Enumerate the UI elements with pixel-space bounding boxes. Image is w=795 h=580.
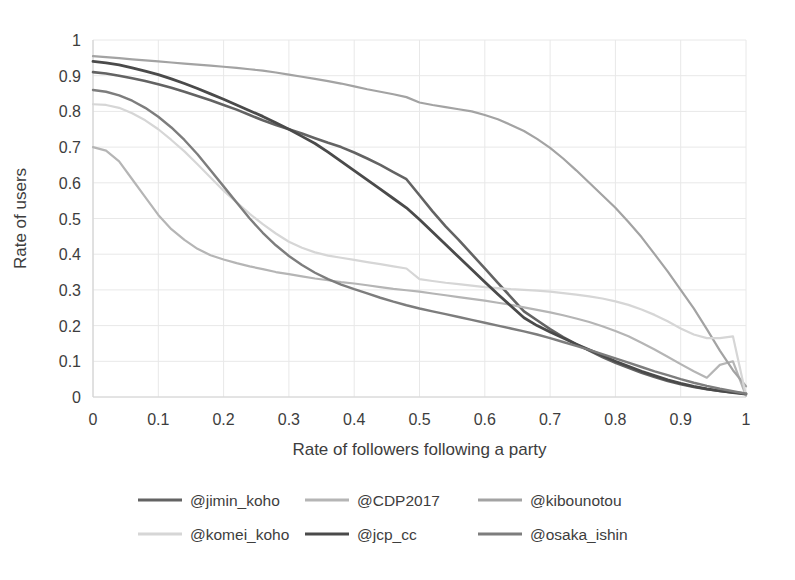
- legend-label: @jcp_cc: [357, 526, 417, 543]
- legend-item: @CDP2017: [305, 492, 440, 509]
- y-tick-label: 0.8: [59, 103, 81, 120]
- x-tick-label: 0.2: [212, 411, 234, 428]
- legend-label: @komei_koho: [190, 526, 289, 543]
- x-tick-labels: 00.10.20.30.40.50.60.70.80.91: [89, 411, 751, 428]
- y-tick-label: 0.2: [59, 318, 81, 335]
- legend-item: @osaka_ishin: [478, 526, 628, 543]
- y-tick-label: 0.9: [59, 68, 81, 85]
- x-tick-label: 0.4: [343, 411, 365, 428]
- x-tick-label: 0.5: [408, 411, 430, 428]
- x-tick-label: 0: [89, 411, 98, 428]
- x-tick-label: 0.3: [278, 411, 300, 428]
- legend-label: @CDP2017: [357, 492, 440, 509]
- chart-figure: 00.10.20.30.40.50.60.70.80.91 00.10.20.3…: [0, 0, 795, 580]
- x-tick-label: 0.8: [604, 411, 626, 428]
- legend-label: @jimin_koho: [190, 492, 280, 509]
- x-tick-label: 1: [742, 411, 751, 428]
- y-tick-labels: 00.10.20.30.40.50.60.70.80.91: [59, 32, 81, 406]
- line-chart: 00.10.20.30.40.50.60.70.80.91 00.10.20.3…: [0, 0, 795, 580]
- legend-item: @jimin_koho: [138, 492, 280, 509]
- y-tick-label: 0.1: [59, 353, 81, 370]
- x-tick-label: 0.7: [539, 411, 561, 428]
- y-tick-label: 1: [72, 32, 81, 49]
- chart-legend: @jimin_koho@CDP2017@kibounotou@komei_koh…: [138, 492, 628, 543]
- y-axis-title: Rate of users: [11, 168, 30, 269]
- y-tick-label: 0.5: [59, 211, 81, 228]
- legend-item: @komei_koho: [138, 526, 289, 543]
- y-tick-label: 0.3: [59, 282, 81, 299]
- x-tick-label: 0.1: [147, 411, 169, 428]
- x-axis-title: Rate of followers following a party: [292, 440, 547, 459]
- legend-label: @osaka_ishin: [530, 526, 628, 543]
- y-tick-label: 0.4: [59, 246, 81, 263]
- y-tick-label: 0.6: [59, 175, 81, 192]
- legend-label: @kibounotou: [530, 492, 622, 509]
- legend-item: @kibounotou: [478, 492, 622, 509]
- y-tick-label: 0: [72, 389, 81, 406]
- x-tick-label: 0.6: [474, 411, 496, 428]
- legend-item: @jcp_cc: [305, 526, 417, 543]
- x-tick-label: 0.9: [670, 411, 692, 428]
- y-tick-label: 0.7: [59, 139, 81, 156]
